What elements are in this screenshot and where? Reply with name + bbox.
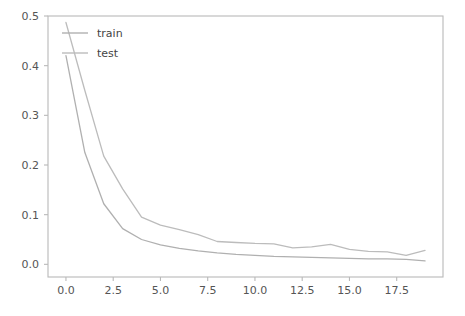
y-tick-label: 0.2 [22, 159, 40, 172]
x-tick-label: 7.5 [199, 284, 217, 297]
x-tick-label: 17.5 [384, 284, 409, 297]
x-tick-label: 12.5 [290, 284, 315, 297]
line-chart: 0.02.55.07.510.012.515.017.5 0.00.10.20.… [0, 0, 465, 316]
y-axis-ticks: 0.00.10.20.30.40.5 [22, 10, 49, 271]
x-tick-label: 0.0 [57, 284, 75, 297]
y-tick-label: 0.4 [22, 60, 40, 73]
legend-label-test: test [97, 47, 119, 60]
y-tick-label: 0.1 [22, 209, 40, 222]
x-tick-label: 10.0 [243, 284, 268, 297]
x-tick-label: 15.0 [337, 284, 362, 297]
y-tick-label: 0.3 [22, 109, 40, 122]
x-tick-label: 5.0 [152, 284, 170, 297]
y-tick-label: 0.5 [22, 10, 40, 23]
figure-canvas: 0.02.55.07.510.012.515.017.5 0.00.10.20.… [0, 0, 465, 316]
x-tick-label: 2.5 [104, 284, 122, 297]
y-tick-label: 0.0 [22, 258, 40, 271]
x-axis-ticks: 0.02.55.07.510.012.515.017.5 [57, 277, 409, 297]
legend-label-train: train [97, 27, 123, 40]
